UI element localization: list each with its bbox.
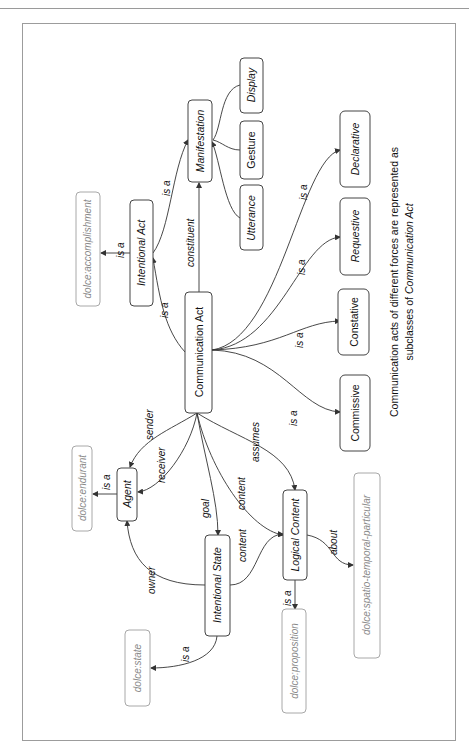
diagram-note: Communication acts of different forces a… — [388, 147, 415, 417]
edge-owner — [127, 521, 205, 585]
edge-gesture-manifestation — [213, 140, 240, 150]
svg-text:dolce:proposition: dolce:proposition — [289, 623, 300, 699]
node-agent[interactable]: Agent — [117, 468, 137, 521]
note-line-1: Communication acts of different forces a… — [388, 147, 400, 417]
svg-text:Communication Act: Communication Act — [193, 307, 205, 398]
svg-text:Intentional Act: Intentional Act — [135, 219, 147, 286]
ext-node-accomplishment[interactable]: dolce:accomplishment — [76, 192, 100, 306]
label-is-isa-state: is a — [180, 646, 191, 662]
node-declarative[interactable]: Declarative — [340, 111, 370, 187]
label-content-is-lc: content — [237, 528, 248, 562]
svg-text:Agent: Agent — [121, 479, 133, 509]
node-logical-content[interactable]: Logical Content — [283, 490, 307, 580]
label-owner: owner — [146, 566, 157, 594]
node-requestive[interactable]: Requestive — [340, 198, 370, 275]
svg-text:dolce:endurant: dolce:endurant — [77, 454, 88, 521]
label-isa-constative: is a — [294, 332, 305, 348]
node-gesture[interactable]: Gesture — [240, 121, 263, 179]
edge-commissive — [212, 350, 340, 412]
label-assumes: assumes — [250, 422, 261, 462]
svg-text:Commissive: Commissive — [349, 384, 361, 441]
svg-text:Logical Content: Logical Content — [289, 497, 301, 571]
node-utterance[interactable]: Utterance — [240, 185, 263, 250]
svg-text:Declarative: Declarative — [349, 123, 361, 176]
svg-text:Manifestation: Manifestation — [194, 110, 206, 173]
label-content-ca-lc: content — [236, 476, 247, 510]
node-intentional-act[interactable]: Intentional Act — [130, 200, 153, 306]
label-lc-isa-proposition: is a — [282, 590, 293, 606]
ext-node-endurant[interactable]: dolce:endurant — [72, 446, 92, 531]
label-isa-declarative: is a — [298, 184, 309, 200]
ext-node-spatio-temporal-particular[interactable]: dolce:spatio-temporal-particular — [354, 473, 380, 658]
node-manifestation[interactable]: Manifestation — [188, 100, 212, 182]
svg-text:dolce:state: dolce:state — [132, 643, 143, 692]
note-line-2: subclasses of Communication Act — [403, 202, 415, 360]
svg-text:dolce:spatio-temporal-particul: dolce:spatio-temporal-particular — [361, 494, 372, 635]
node-intentional-state[interactable]: Intentional State — [205, 535, 230, 636]
label-ca-isa-ia: is a — [159, 302, 170, 318]
label-ia-isa-accomplishment: is a — [115, 242, 126, 258]
node-commissive[interactable]: Commissive — [340, 375, 370, 451]
edge-utterance-manifestation — [212, 142, 240, 218]
ontology-diagram: is a is a is a constituent sender receiv… — [0, 0, 469, 753]
label-isa-requestive: is a — [296, 259, 307, 275]
edge-declarative — [212, 150, 340, 350]
edge-requestive — [212, 237, 340, 350]
label-goal: goal — [200, 498, 211, 518]
edge-display-manifestation — [213, 85, 240, 140]
ext-node-state[interactable]: dolce:state — [125, 630, 150, 706]
label-about: about — [328, 529, 339, 555]
label-isa-commissive: is a — [288, 410, 299, 426]
label-constituent: constituent — [185, 217, 196, 267]
node-display[interactable]: Display — [240, 58, 263, 113]
svg-text:Display: Display — [245, 67, 257, 102]
ext-node-proposition[interactable]: dolce:proposition — [282, 609, 306, 713]
label-ia-isa-manifestation: is a — [161, 180, 172, 196]
svg-text:Gesture: Gesture — [245, 131, 257, 169]
node-communication-act[interactable]: Communication Act — [185, 292, 212, 413]
label-sender: sender — [144, 409, 155, 440]
svg-text:Requestive: Requestive — [349, 210, 361, 263]
svg-text:Intentional State: Intentional State — [211, 547, 223, 623]
svg-text:Constative: Constative — [348, 297, 360, 347]
svg-text:dolce:accomplishment: dolce:accomplishment — [82, 198, 93, 298]
svg-text:Utterance: Utterance — [245, 195, 257, 241]
label-receiver: receiver — [156, 447, 167, 483]
node-constative[interactable]: Constative — [338, 289, 369, 355]
label-agent-isa: is a — [101, 474, 112, 490]
